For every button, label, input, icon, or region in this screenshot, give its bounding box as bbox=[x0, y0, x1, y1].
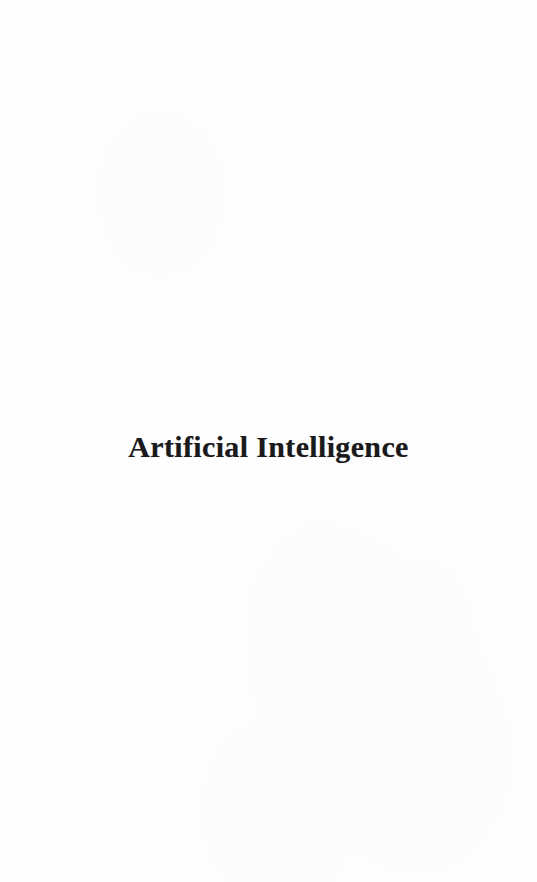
scanned-page: Artificial Intelligence bbox=[0, 0, 537, 882]
page-title-block: Artificial Intelligence bbox=[0, 430, 537, 464]
page-title: Artificial Intelligence bbox=[128, 430, 408, 464]
